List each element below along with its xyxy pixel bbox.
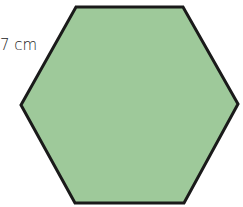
side-length-label: 7 cm — [0, 36, 37, 54]
hexagon-figure — [0, 0, 243, 207]
hexagon-shape — [21, 7, 238, 203]
